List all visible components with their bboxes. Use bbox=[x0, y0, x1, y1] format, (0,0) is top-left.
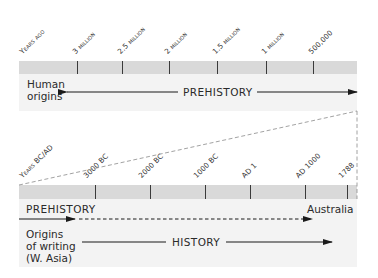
zoom-connector-diagonal bbox=[19, 111, 357, 185]
connector-lines bbox=[0, 0, 378, 278]
